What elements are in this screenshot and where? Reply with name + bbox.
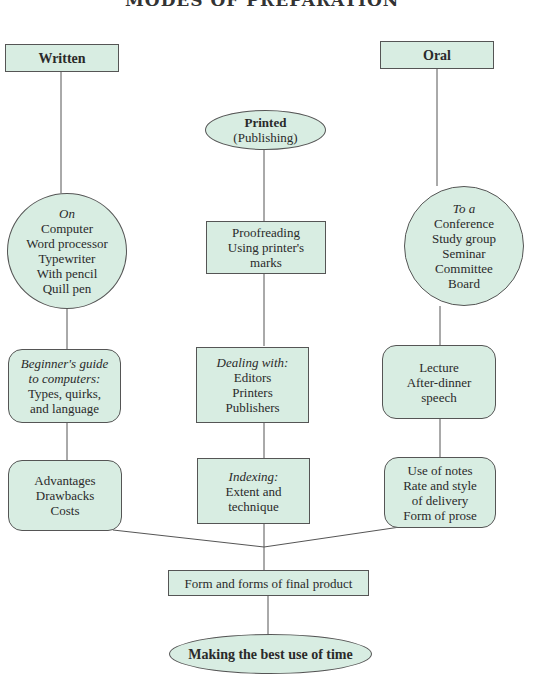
written-header: Written [5, 44, 119, 72]
oral-venues-circle: To a Conference Study group Seminar Comm… [404, 186, 524, 306]
printed-indexing-box: Indexing: Extent and technique [197, 458, 310, 524]
final-product-box: Form and forms of final product [168, 570, 369, 596]
oral-header: Oral [380, 41, 494, 69]
written-media-circle: On Computer Word processor Typewriter Wi… [7, 193, 127, 309]
oral-types-box: Lecture After-dinner speech [382, 345, 496, 419]
conclusion-ellipse: Making the best use of time [169, 634, 372, 674]
oral-delivery-box: Use of notes Rate and style of delivery … [384, 457, 496, 528]
printed-header: Printed (Publishing) [205, 110, 326, 150]
printed-dealing-box: Dealing with: Editors Printers Publisher… [196, 347, 309, 423]
written-guide-box: Beginner's guide to computers: Types, qu… [8, 349, 121, 423]
printed-proofing-box: Proofreading Using printer's marks [206, 221, 326, 274]
written-evaluation-box: Advantages Drawbacks Costs [8, 460, 122, 531]
